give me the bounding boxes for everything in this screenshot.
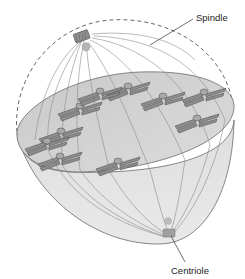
spindle-label: Spindle [196, 12, 228, 23]
centriole-label: Centriole [171, 265, 209, 276]
centriole-upper [73, 30, 90, 51]
spindle-leader-line [150, 19, 193, 45]
metaphase-cell-diagram [0, 0, 245, 279]
